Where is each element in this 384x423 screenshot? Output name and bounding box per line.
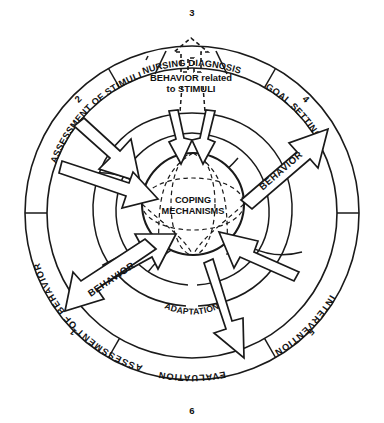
- ring-label-evaluation: EVALUATION: [157, 370, 226, 383]
- ring-label-goal-setting: GOAL SETTING: [264, 81, 323, 140]
- core-label-line-2: MECHANISMS: [162, 206, 225, 216]
- segment-number-3: 3: [189, 7, 194, 18]
- adaptation-model-diagram: NURSING DIAGNOSIS EVALUATION ASSESSMENT …: [0, 0, 384, 423]
- stimuli-note-line-2: to STIMULI: [167, 83, 216, 94]
- ring-divider-lower-right: [265, 338, 276, 357]
- stimuli-note-line-1: BEHAVIOR related: [150, 72, 232, 83]
- adaptation-label: ADAPTATION: [163, 301, 220, 317]
- feeder-tick-far-left: [146, 56, 148, 60]
- segment-number-6: 6: [189, 405, 194, 416]
- core-label-line-1: COPING: [175, 195, 211, 205]
